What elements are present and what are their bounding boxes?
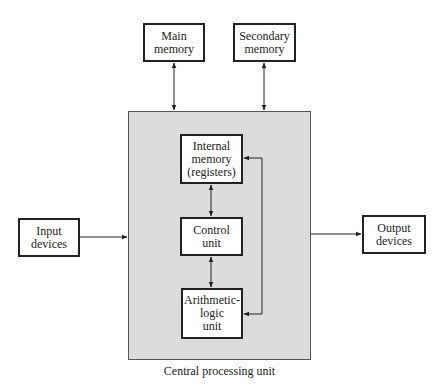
internal-memory-box: Internal memory (registers) <box>180 134 243 184</box>
cpu-architecture-diagram: Main memory Secondary memory Internal me… <box>0 0 443 387</box>
cpu-caption: Central processing unit <box>128 364 311 379</box>
input-devices-box: Input devices <box>18 218 80 257</box>
secondary-memory-box: Secondary memory <box>233 23 296 62</box>
output-devices-box: Output devices <box>362 215 426 254</box>
control-unit-box: Control unit <box>180 217 243 256</box>
alu-box: Arithmetic- logic unit <box>181 288 243 339</box>
main-memory-box: Main memory <box>143 23 205 62</box>
